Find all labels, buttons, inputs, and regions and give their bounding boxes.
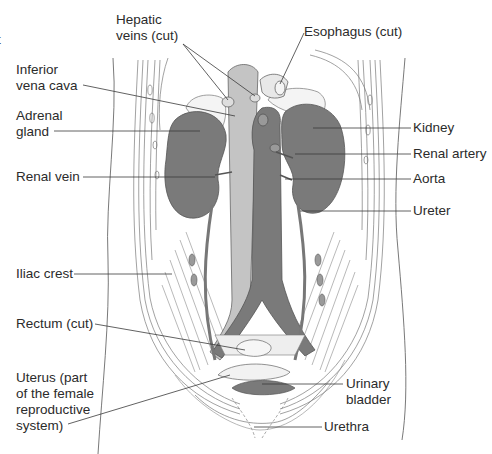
edge-fragment-text: t [0, 32, 1, 48]
urinary-bladder [232, 381, 295, 395]
urinary-system-diagram: t Hepatic veins (cut) Esophagus (cut) In… [0, 0, 492, 454]
left-kidney [165, 112, 226, 219]
right-kidney [282, 104, 345, 213]
label-iliac-crest: Iliac crest [16, 266, 73, 282]
uterus [218, 364, 290, 380]
label-kidney: Kidney [413, 120, 454, 136]
label-urethra: Urethra [324, 419, 369, 435]
label-adrenal-gland: Adrenal gland [16, 108, 63, 140]
label-urinary-bladder: Urinary bladder [346, 376, 391, 408]
label-hepatic-veins: Hepatic veins (cut) [116, 12, 178, 44]
label-aorta: Aorta [413, 171, 445, 187]
label-renal-vein: Renal vein [16, 169, 80, 185]
label-esophagus: Esophagus (cut) [304, 24, 402, 40]
esophagus [260, 74, 288, 98]
label-inferior-vena-cava: Inferior vena cava [16, 62, 78, 94]
pelvic-organs [175, 335, 345, 438]
label-ureter: Ureter [413, 203, 451, 219]
label-uterus: Uterus (part of the female reproductive … [16, 370, 94, 434]
rectum [237, 340, 271, 357]
label-renal-artery: Renal artery [413, 146, 487, 162]
label-rectum: Rectum (cut) [16, 316, 93, 332]
